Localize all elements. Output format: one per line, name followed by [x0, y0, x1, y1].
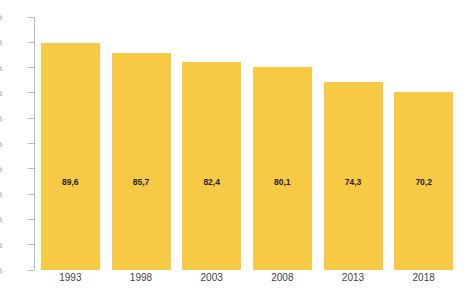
x-axis-label: 2013 [318, 272, 389, 283]
y-axis-tick-label: 20% [0, 215, 2, 224]
y-axis-tick-mark [28, 17, 34, 18]
bar-slot: 89,6 [41, 17, 100, 270]
bar-slot: 70,2 [394, 17, 453, 270]
bar[interactable]: 70,2 [394, 92, 453, 270]
y-axis-tick-mark [28, 168, 34, 169]
y-axis-tick-label: 90% [0, 38, 2, 47]
bar-slot: 82,4 [182, 17, 241, 270]
y-axis-tick-mark [28, 118, 34, 119]
bar[interactable]: 89,6 [41, 43, 100, 270]
bar-value-label: 82,4 [182, 177, 241, 187]
y-axis-tick-mark [28, 143, 34, 144]
bar-chart: 0%10%20%30%40%50%60%70%80%90%100% 89,685… [0, 0, 467, 300]
x-axis-label: 2018 [388, 272, 459, 283]
y-axis-tick-mark [28, 42, 34, 43]
y-axis-tick-label: 0% [0, 266, 2, 275]
y-axis-tick-label: 80% [0, 63, 2, 72]
bar-value-label: 74,3 [324, 177, 383, 187]
y-axis-ticks: 0%10%20%30%40%50%60%70%80%90%100% [0, 0, 40, 300]
y-axis-tick-label: 30% [0, 190, 2, 199]
x-axis-label: 1998 [106, 272, 177, 283]
y-axis-tick-label: 40% [0, 164, 2, 173]
x-axis-label: 1993 [35, 272, 106, 283]
y-axis-tick-label: 10% [0, 240, 2, 249]
bar-value-label: 89,6 [41, 177, 100, 187]
bar-value-label: 70,2 [394, 177, 453, 187]
y-axis-tick-mark [28, 219, 34, 220]
x-axis-label: 2003 [176, 272, 247, 283]
bar-value-label: 85,7 [112, 177, 171, 187]
bar-slot: 80,1 [253, 17, 312, 270]
y-axis-tick-label: 100% [0, 13, 2, 22]
bar-value-label: 80,1 [253, 177, 312, 187]
x-axis-label: 2008 [247, 272, 318, 283]
y-axis-tick-label: 60% [0, 114, 2, 123]
plot-area: 89,685,782,480,174,370,2 [35, 17, 459, 270]
bar[interactable]: 85,7 [112, 53, 171, 270]
bar-slot: 74,3 [324, 17, 383, 270]
y-axis-tick-mark [28, 194, 34, 195]
bar[interactable]: 82,4 [182, 62, 241, 270]
y-axis-tick-mark [28, 92, 34, 93]
x-axis-labels: 199319982003200820132018 [35, 272, 459, 292]
bar[interactable]: 74,3 [324, 82, 383, 270]
bar-slot: 85,7 [112, 17, 171, 270]
y-axis-tick-mark [28, 67, 34, 68]
y-axis-tick-mark [28, 270, 34, 271]
y-axis-tick-label: 50% [0, 139, 2, 148]
bar[interactable]: 80,1 [253, 67, 312, 270]
y-axis-tick-mark [28, 244, 34, 245]
y-axis-tick-label: 70% [0, 88, 2, 97]
